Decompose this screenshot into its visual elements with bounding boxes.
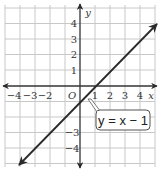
- y-tick-neg4: −4: [65, 143, 80, 154]
- coordinate-graph: −4 −3 −2 O 1 2 3 4 x y 4 3 2 1 −3 −4 y =…: [0, 0, 160, 170]
- x-tick-neg3: −3: [23, 90, 38, 101]
- y-tick-1: 1: [71, 65, 77, 76]
- origin-label: O: [68, 90, 76, 101]
- x-tick-neg2: −2: [38, 90, 53, 101]
- equation-label: y = x − 1: [98, 113, 148, 128]
- y-tick-2: 2: [71, 49, 77, 60]
- x-axis-label: x: [148, 90, 154, 101]
- x-tick-2: 2: [107, 90, 113, 101]
- y-tick-4: 4: [71, 18, 77, 29]
- y-axis-label: y: [84, 7, 91, 18]
- x-tick-neg4: −4: [7, 90, 22, 101]
- equation-callout: y = x − 1: [88, 99, 150, 130]
- y-tick-neg3: −3: [65, 127, 80, 138]
- y-tick-3: 3: [71, 34, 77, 45]
- x-tick-3: 3: [122, 90, 128, 101]
- x-tick-4: 4: [137, 90, 143, 101]
- x-tick-1: 1: [92, 90, 98, 101]
